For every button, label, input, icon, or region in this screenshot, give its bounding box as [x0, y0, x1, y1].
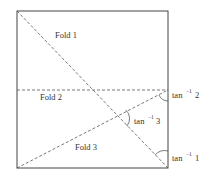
- svg-text:−1: −1: [148, 114, 154, 120]
- fold-1-label: Fold 1: [55, 30, 77, 40]
- angle-label-tan1: tan −1 1: [172, 151, 199, 163]
- fold-2-label: Fold 2: [40, 92, 62, 102]
- svg-text:−1: −1: [186, 88, 192, 94]
- svg-text:tan: tan: [172, 153, 183, 163]
- angle-label-tan3: tan −1 3: [134, 114, 160, 126]
- svg-text:1: 1: [195, 153, 199, 163]
- svg-text:2: 2: [195, 90, 199, 100]
- angle-arc-2: [159, 95, 168, 101]
- fold-3-label: Fold 3: [75, 142, 97, 152]
- svg-text:tan: tan: [134, 116, 145, 126]
- svg-text:3: 3: [156, 116, 160, 126]
- svg-text:−1: −1: [186, 151, 192, 157]
- angle-arc-3: [126, 110, 130, 126]
- folded-square-diagram: Fold 1 Fold 2 Fold 3 tan −1 2 tan −1 3 t…: [0, 0, 210, 179]
- svg-text:tan: tan: [172, 90, 183, 100]
- angle-arc-1: [155, 151, 168, 155]
- angle-label-tan2: tan −1 2: [172, 88, 199, 100]
